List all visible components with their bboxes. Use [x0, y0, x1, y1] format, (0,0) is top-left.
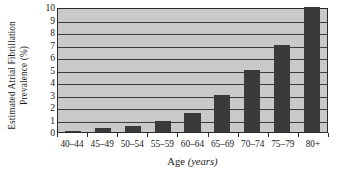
bar-slot [207, 9, 237, 132]
x-axis-tick-label: 75–79 [268, 138, 298, 152]
bar-slot [267, 9, 297, 132]
bar-slot [118, 9, 148, 132]
bar[interactable] [304, 7, 320, 132]
y-axis-tick-label: 4 [38, 78, 55, 88]
x-axis-tick-mark [268, 133, 269, 137]
bar[interactable] [274, 45, 290, 133]
bar-slot [297, 9, 327, 132]
bar-slot [237, 9, 267, 132]
bar-slot [58, 9, 88, 132]
x-axis-tick-marks [57, 133, 328, 137]
y-axis-tick-label: 0 [38, 128, 55, 138]
x-axis-title-unit: (years) [188, 156, 218, 167]
y-axis-tick-label: 6 [38, 53, 55, 63]
bar-slot [178, 9, 208, 132]
x-axis-title-text: Age [167, 156, 185, 167]
x-axis-tick-label: 40–44 [57, 138, 87, 152]
bar-slot [88, 9, 118, 132]
bar[interactable] [95, 128, 111, 132]
x-axis-tick-mark [298, 133, 299, 137]
bar-slot [148, 9, 178, 132]
x-axis-tick-label: 55–59 [147, 138, 177, 152]
x-axis-tick-mark [57, 133, 58, 137]
x-axis-tick-label: 65–69 [208, 138, 238, 152]
bar[interactable] [214, 95, 230, 133]
bar[interactable] [155, 121, 171, 132]
y-axis-tick-labels: 012345678910 [38, 8, 55, 133]
bar[interactable] [125, 126, 141, 132]
y-axis-tick-label: 5 [38, 66, 55, 76]
x-axis-tick-mark [87, 133, 88, 137]
x-axis-tick-mark [177, 133, 178, 137]
y-axis-tick-label: 2 [38, 103, 55, 113]
x-axis-tick-label: 45–49 [87, 138, 117, 152]
bar-chart-figure: Estimated Atrial Fibrillation Prevalence… [0, 0, 338, 175]
y-axis-tick-label: 7 [38, 41, 55, 51]
x-axis-tick-label: 60–64 [177, 138, 207, 152]
bar[interactable] [65, 131, 81, 132]
y-axis-tick-label: 3 [38, 91, 55, 101]
x-axis-tick-mark [328, 133, 329, 137]
x-axis-tick-label: 80+ [298, 138, 328, 152]
x-axis-tick-mark [238, 133, 239, 137]
y-axis-title: Estimated Atrial Fibrillation Prevalence… [0, 0, 36, 150]
y-axis-title-line1: Estimated Atrial Fibrillation [6, 21, 18, 130]
x-axis-tick-mark [208, 133, 209, 137]
bar[interactable] [244, 70, 260, 133]
y-axis-tick-label: 10 [38, 3, 55, 13]
bars-layer [58, 9, 327, 132]
x-axis-tick-label: 50–54 [117, 138, 147, 152]
x-axis-tick-mark [117, 133, 118, 137]
y-axis-tick-label: 9 [38, 16, 55, 26]
x-axis-tick-label: 70–74 [238, 138, 268, 152]
x-axis-title: Age (years) [57, 155, 328, 168]
x-axis-tick-mark [147, 133, 148, 137]
bar[interactable] [184, 113, 200, 132]
y-axis-tick-label: 8 [38, 28, 55, 38]
x-axis-tick-labels: 40–4445–4950–5455–5960–6465–6970–7475–79… [57, 138, 328, 152]
y-axis-title-line2: Prevalence (%) [18, 21, 30, 130]
y-axis-tick-label: 1 [38, 116, 55, 126]
plot-area [57, 8, 328, 133]
